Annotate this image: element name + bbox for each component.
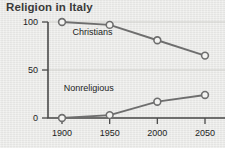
data-point-marker — [202, 92, 209, 99]
series-line-nonreligious — [62, 95, 205, 118]
data-point-marker — [106, 112, 113, 119]
data-point-marker — [59, 19, 66, 26]
y-tick-group: 050100 — [23, 17, 48, 123]
chart-plot-area: 050100 1900195020002050 ChristiansNonrel… — [0, 0, 225, 148]
series-label-nonreligious: Nonreligious — [64, 83, 115, 93]
series-label-group: ChristiansNonreligious — [64, 27, 115, 93]
x-tick-label: 1950 — [100, 128, 120, 138]
y-tick-label: 100 — [23, 17, 38, 27]
y-tick-label: 0 — [33, 113, 38, 123]
data-point-marker — [154, 98, 161, 105]
x-tick-group: 1900195020002050 — [52, 118, 215, 138]
y-tick-label: 50 — [28, 65, 38, 75]
series-label-christians: Christians — [72, 27, 113, 37]
x-tick-label: 2050 — [195, 128, 215, 138]
chart-figure: Religion in Italy 050100 190019502000205… — [0, 0, 225, 148]
data-point-marker — [202, 52, 209, 59]
data-point-marker — [154, 37, 161, 44]
x-tick-label: 2000 — [147, 128, 167, 138]
x-tick-label: 1900 — [52, 128, 72, 138]
data-point-marker — [59, 115, 66, 122]
